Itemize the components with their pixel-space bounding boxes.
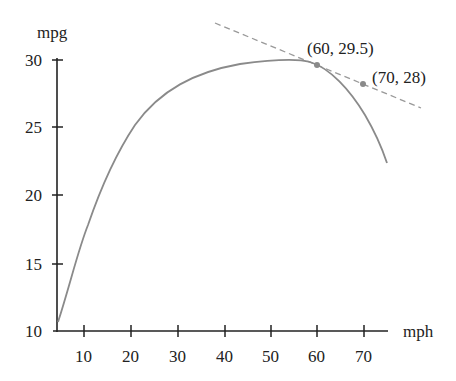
x-tick-label: 60 xyxy=(308,347,325,366)
x-axis-label: mph xyxy=(403,322,434,341)
x-tick-label: 20 xyxy=(122,347,139,366)
point-marker-70 xyxy=(360,81,366,87)
mpg-curve xyxy=(58,60,387,322)
x-tick-label: 10 xyxy=(75,347,92,366)
point-label-60: (60, 29.5) xyxy=(307,39,374,58)
y-tick-label: 15 xyxy=(25,255,42,274)
x-tick-label: 30 xyxy=(169,347,186,366)
y-tick-label: 25 xyxy=(25,118,42,137)
point-label-70: (70, 28) xyxy=(372,68,426,87)
point-marker-60 xyxy=(314,62,320,68)
x-tick-label: 40 xyxy=(216,347,233,366)
y-tick-label: 30 xyxy=(25,51,42,70)
chart: mpg mph 30 25 20 15 10 10 20 30 40 50 60… xyxy=(0,0,456,381)
x-tick-label: 70 xyxy=(355,347,372,366)
x-tick-label: 50 xyxy=(262,347,279,366)
y-tick-label: 10 xyxy=(25,322,42,341)
y-axis-label: mpg xyxy=(37,23,68,42)
y-tick-label: 20 xyxy=(25,186,42,205)
